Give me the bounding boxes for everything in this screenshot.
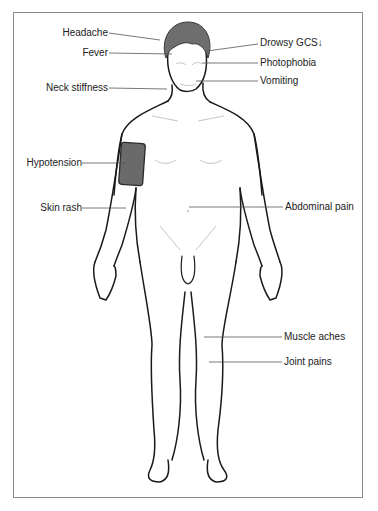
label-fever: Fever	[48, 47, 108, 59]
body-figure	[0, 0, 378, 511]
torso-right	[210, 102, 262, 195]
label-joint-pains: Joint pains	[284, 356, 332, 368]
label-vomiting: Vomiting	[260, 75, 298, 87]
arm-left-inner	[114, 188, 136, 266]
label-photophobia: Photophobia	[260, 57, 316, 69]
label-abdominal-pain: Abdominal pain	[285, 201, 354, 213]
bp-cuff	[119, 142, 146, 186]
neck-right	[203, 83, 210, 102]
label-drowsy-gcs: Drowsy GCS↓	[260, 37, 323, 49]
hip-right	[236, 188, 241, 262]
leader-drowsy	[207, 44, 258, 51]
label-neck-stiffness: Neck stiffness	[28, 82, 108, 94]
hand-left	[94, 262, 116, 300]
label-skin-rash: Skin rash	[20, 202, 82, 214]
arm-right-inner	[240, 188, 262, 266]
leg-left-outer	[140, 262, 169, 482]
label-muscle-aches: Muscle aches	[284, 331, 345, 343]
hip-left	[135, 188, 140, 262]
label-headache: Headache	[48, 27, 108, 39]
groin	[181, 256, 195, 284]
leg-right-outer	[207, 262, 236, 482]
leg-right-inner	[191, 292, 204, 460]
leader-fever	[109, 53, 172, 54]
label-hypotension: Hypotension	[20, 157, 82, 169]
neck-left	[168, 85, 172, 101]
hair	[164, 22, 210, 58]
leader-neck-stiffness	[109, 88, 167, 89]
leg-left-inner	[172, 292, 185, 460]
leader-headache	[109, 33, 160, 40]
hand-right	[260, 262, 282, 300]
